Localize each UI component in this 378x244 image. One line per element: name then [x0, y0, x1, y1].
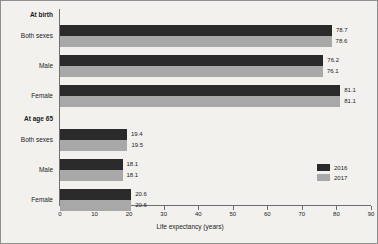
bar-value-label: 18.1 — [127, 161, 139, 167]
x-tick — [198, 206, 199, 210]
bar-2016 — [60, 129, 127, 140]
bar-2017 — [60, 200, 131, 211]
group-label: At birth — [30, 11, 53, 18]
bar-2016 — [60, 189, 131, 200]
bar-2017 — [60, 170, 123, 181]
category-label: Both sexes — [21, 32, 53, 39]
x-tick — [371, 206, 372, 210]
x-tick — [164, 206, 165, 210]
legend-item-2017: 2017 — [317, 174, 347, 181]
bar-2016 — [60, 85, 340, 96]
bar-value-label: 76.2 — [327, 57, 339, 63]
bar-value-label: 78.7 — [336, 27, 348, 33]
bar-value-label: 19.5 — [131, 142, 143, 148]
x-tick-label: 60 — [264, 211, 271, 217]
category-label: Female — [31, 196, 53, 203]
bar-2017 — [60, 140, 127, 151]
bar-2017 — [60, 66, 323, 77]
x-tick-label: 0 — [58, 211, 61, 217]
category-label: Female — [31, 92, 53, 99]
legend-item-2016: 2016 — [317, 164, 347, 171]
x-tick-label: 30 — [160, 211, 167, 217]
bar-value-label: 81.1 — [344, 98, 356, 104]
bar-value-label: 76.1 — [327, 68, 339, 74]
x-tick-label: 40 — [195, 211, 202, 217]
bar-value-label: 81.1 — [344, 87, 356, 93]
bar-value-label: 20.6 — [135, 202, 147, 208]
legend-label-2017: 2017 — [334, 175, 347, 181]
category-label: Male — [39, 62, 53, 69]
x-tick — [233, 206, 234, 210]
x-tick — [336, 206, 337, 210]
group-label: At age 65 — [24, 115, 53, 122]
chart-legend: 2016 2017 — [317, 164, 347, 184]
bar-2016 — [60, 25, 332, 36]
x-axis-title: Life expectancy (years) — [1, 223, 378, 230]
legend-swatch-2017 — [317, 174, 330, 181]
category-label: Both sexes — [21, 136, 53, 143]
x-tick-label: 10 — [91, 211, 98, 217]
legend-label-2016: 2016 — [334, 165, 347, 171]
bar-value-label: 18.1 — [127, 172, 139, 178]
bar-2016 — [60, 159, 123, 170]
x-tick-label: 70 — [299, 211, 306, 217]
bar-2016 — [60, 55, 323, 66]
legend-swatch-2016 — [317, 164, 330, 171]
x-tick-label: 90 — [368, 211, 375, 217]
x-tick-label: 80 — [333, 211, 340, 217]
bar-value-label: 20.6 — [135, 191, 147, 197]
chart-figure: 0102030405060708090 At birthBoth sexesMa… — [0, 0, 378, 244]
bar-2017 — [60, 96, 340, 107]
x-tick-label: 50 — [229, 211, 236, 217]
category-label: Male — [39, 166, 53, 173]
bar-2017 — [60, 36, 332, 47]
bar-value-label: 78.6 — [336, 38, 348, 44]
x-tick — [267, 206, 268, 210]
x-tick — [302, 206, 303, 210]
bar-value-label: 19.4 — [131, 131, 143, 137]
x-tick-label: 20 — [126, 211, 133, 217]
